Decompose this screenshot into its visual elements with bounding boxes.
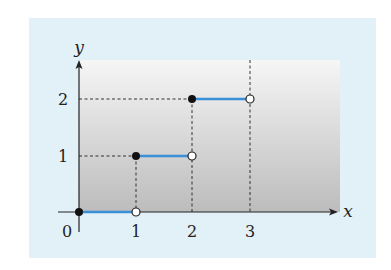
x-tick-2: 2: [187, 222, 197, 241]
y-tick-1: 1: [58, 147, 68, 166]
step-function-chart: 0 1 2 3 1 2 x y: [0, 0, 391, 270]
y-axis-label: y: [73, 37, 84, 57]
x-axis-label: x: [343, 201, 353, 221]
open-point-1-0: [132, 208, 140, 216]
closed-point-2-2: [188, 95, 196, 103]
closed-point-0-0: [75, 208, 83, 216]
open-point-3-2: [246, 95, 254, 103]
x-tick-3: 3: [245, 222, 255, 241]
y-tick-2: 2: [58, 90, 68, 109]
plot-region: [79, 60, 340, 212]
x-tick-1: 1: [131, 222, 141, 241]
closed-point-1-1: [132, 152, 140, 160]
x-tick-0: 0: [62, 222, 72, 241]
open-point-2-1: [188, 152, 196, 160]
